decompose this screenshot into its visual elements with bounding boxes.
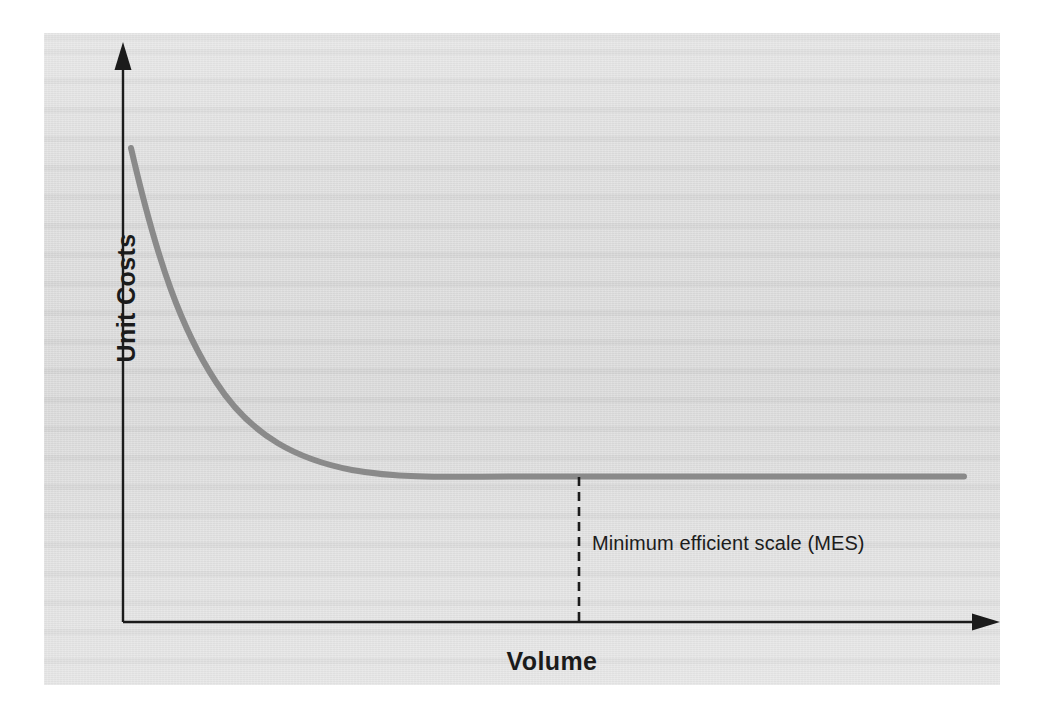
scan-shading-overlay [44, 33, 1000, 685]
paper-grain-texture [44, 33, 1000, 685]
reverse-page-ghost-text [44, 33, 1000, 685]
figure-panel [44, 33, 1000, 685]
x-axis-label: Volume [452, 647, 652, 676]
y-axis-label: Unit Costs [109, 218, 143, 378]
mes-annotation-label: Minimum efficient scale (MES) [592, 532, 865, 555]
figure-page: Unit Costs Volume Minimum efficient scal… [0, 0, 1041, 719]
